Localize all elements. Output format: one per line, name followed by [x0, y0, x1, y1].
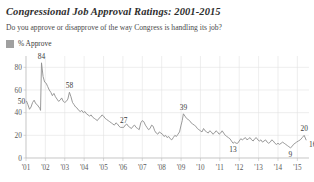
- label-13: 13: [229, 145, 237, 154]
- x-axis-tick-label: '14: [274, 164, 283, 172]
- gridlines: [26, 56, 309, 158]
- label-9: 9: [289, 150, 293, 159]
- x-axis-tick-label: '05: [99, 164, 108, 172]
- x-axis-tick-label: '07: [138, 164, 147, 172]
- y-axis-tick-label: 40: [15, 108, 23, 117]
- label-84: 84: [38, 52, 46, 61]
- axis-lines: [24, 56, 310, 161]
- x-axis-tick-label: '01: [22, 164, 31, 172]
- x-axis-tick-label: '10: [196, 164, 205, 172]
- label-58: 58: [66, 81, 74, 90]
- x-axis-tick-label: '03: [61, 164, 70, 172]
- legend-item-label: % Approve: [18, 39, 51, 48]
- label-39: 39: [180, 103, 188, 112]
- y-axis-tick-label: 80: [15, 63, 23, 72]
- y-axis-tick-label: 0: [18, 154, 22, 163]
- x-axis-tick-label: '11: [216, 164, 225, 172]
- chart-legend: % Approve: [6, 39, 51, 48]
- x-axis-tick-label: '09: [177, 164, 186, 172]
- plot-area: 020406080 '01'02'03'04'05'06'07'08'09'10…: [0, 50, 314, 182]
- y-axis-tick-label: 60: [15, 86, 23, 95]
- x-axis-tick-label: '13: [254, 164, 263, 172]
- line-chart-svg: 020406080 '01'02'03'04'05'06'07'08'09'10…: [0, 50, 314, 182]
- label-16: 16: [309, 140, 314, 149]
- page-title: Congressional Job Approval Ratings: 2001…: [6, 6, 221, 17]
- label-50: 50: [18, 97, 26, 106]
- x-axis-tick-label: '06: [119, 164, 128, 172]
- percent-approve-swatch-icon: [6, 40, 14, 48]
- x-axis-tick-label: '12: [235, 164, 244, 172]
- chart-container: Congressional Job Approval Ratings: 2001…: [0, 0, 314, 182]
- y-axis-tick-label: 20: [15, 131, 23, 140]
- x-axis-tick-labels: '01'02'03'04'05'06'07'08'09'10'11'12'13'…: [22, 164, 302, 172]
- y-axis-tick-labels: 020406080: [15, 63, 23, 163]
- x-axis-tick-label: '15: [293, 164, 302, 172]
- label-20: 20: [300, 124, 308, 133]
- x-axis-tick-label: '08: [157, 164, 166, 172]
- label-27: 27: [120, 116, 128, 125]
- x-axis-tick-label: '04: [80, 164, 89, 172]
- chart-subtitle: Do you approve or disapprove of the way …: [6, 23, 222, 32]
- x-axis-tick-label: '02: [41, 164, 50, 172]
